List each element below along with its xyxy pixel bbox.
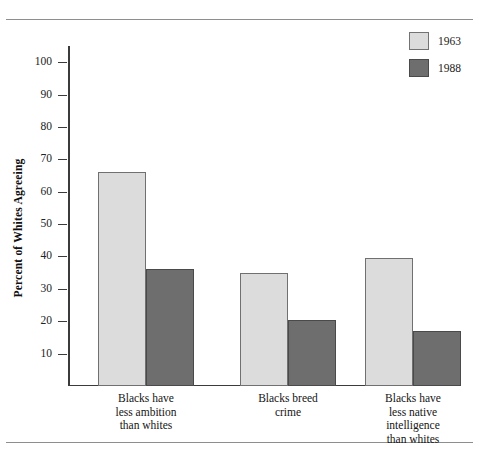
bar-1963-group-3	[365, 258, 413, 386]
y-tick-30	[58, 289, 67, 290]
x-category-label-line: than whites	[76, 419, 216, 433]
bar-1963-group-2	[240, 273, 288, 386]
y-tick-label-100: 100	[18, 56, 52, 68]
x-category-label-line: Blacks have	[343, 392, 479, 406]
y-tick-10	[58, 354, 67, 355]
top-rule	[6, 19, 473, 20]
legend-swatch-1988-icon	[409, 59, 429, 77]
y-tick-40	[58, 256, 67, 257]
y-tick-label-70: 70	[18, 153, 52, 165]
y-tick-label-10: 10	[18, 348, 52, 360]
x-category-label-line: crime	[218, 406, 358, 420]
bar-1988-group-1	[146, 269, 194, 386]
y-tick-60	[58, 192, 67, 193]
y-tick-20	[58, 321, 67, 322]
y-tick-label-60: 60	[18, 186, 52, 198]
plot-area: 102030405060708090100	[68, 46, 460, 386]
x-category-label-line: Blacks have	[76, 392, 216, 406]
chart-page: Percent of Whites Agreeing 1020304050607…	[0, 0, 479, 455]
y-tick-100	[58, 62, 67, 63]
bar-1988-group-3	[413, 331, 461, 386]
x-category-label-2: Blacks breedcrime	[218, 392, 358, 419]
y-tick-80	[58, 127, 67, 128]
bar-1988-group-2	[288, 320, 336, 386]
x-category-label-line: less ambition	[76, 406, 216, 420]
bar-1963-group-1	[98, 172, 146, 386]
legend-swatch-1963-icon	[409, 32, 429, 50]
legend-item-1963: 1963	[409, 32, 461, 50]
y-tick-50	[58, 224, 67, 225]
x-category-label-line: Blacks breed	[218, 392, 358, 406]
x-category-label-line: than whites	[343, 433, 479, 447]
y-tick-label-80: 80	[18, 121, 52, 133]
x-category-label-3: Blacks haveless nativeintelligencethan w…	[343, 392, 479, 446]
y-tick-label-40: 40	[18, 250, 52, 262]
y-tick-label-50: 50	[18, 218, 52, 230]
y-tick-90	[58, 95, 67, 96]
x-category-label-1: Blacks haveless ambitionthan whites	[76, 392, 216, 433]
x-category-label-line: intelligence	[343, 419, 479, 433]
legend-label-1963: 1963	[438, 35, 461, 47]
legend: 1963 1988	[409, 32, 461, 86]
legend-item-1988: 1988	[409, 59, 461, 77]
x-category-label-line: less native	[343, 406, 479, 420]
y-tick-label-90: 90	[18, 89, 52, 101]
legend-label-1988: 1988	[438, 62, 461, 74]
y-tick-label-20: 20	[18, 315, 52, 327]
y-tick-70	[58, 159, 67, 160]
y-tick-label-30: 30	[18, 283, 52, 295]
y-axis-line	[68, 46, 70, 386]
